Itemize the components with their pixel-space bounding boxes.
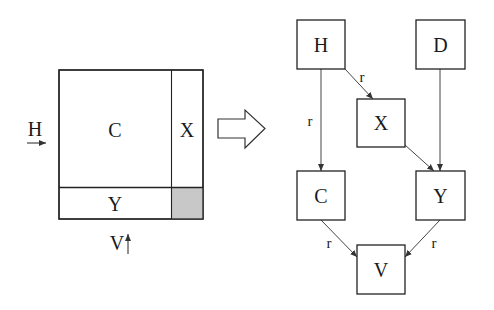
- edge-h-c-label: r: [308, 113, 313, 129]
- v-arrow-label: V: [110, 232, 125, 254]
- node-c-label: C: [314, 185, 327, 207]
- graph-edges: [321, 69, 440, 257]
- node-y-label: Y: [433, 185, 447, 207]
- node-h-label: H: [314, 34, 328, 56]
- edge-y-v-label: r: [432, 235, 437, 251]
- region-x-label: X: [180, 119, 195, 141]
- edge-x-y: [405, 145, 434, 171]
- transform-arrow-icon: [218, 110, 265, 148]
- node-d-label: D: [433, 34, 447, 56]
- node-x-label: X: [374, 112, 389, 134]
- node-v-label: V: [374, 259, 389, 281]
- node-x: X: [357, 99, 405, 147]
- edge-h-x-label: r: [360, 69, 365, 85]
- h-arrow-label: H: [28, 118, 42, 140]
- diagram-canvas: C X Y H V r r r r H D X: [0, 0, 494, 310]
- block-matrix: C X Y H V: [27, 70, 203, 254]
- node-c: C: [297, 171, 345, 220]
- node-d: D: [416, 20, 465, 69]
- edge-c-v-label: r: [327, 235, 332, 251]
- region-y-label: Y: [108, 193, 122, 215]
- node-v: V: [357, 245, 405, 294]
- shaded-corner: [172, 188, 204, 220]
- region-c-label: C: [108, 119, 121, 141]
- node-y: Y: [416, 171, 465, 220]
- node-h: H: [297, 20, 345, 69]
